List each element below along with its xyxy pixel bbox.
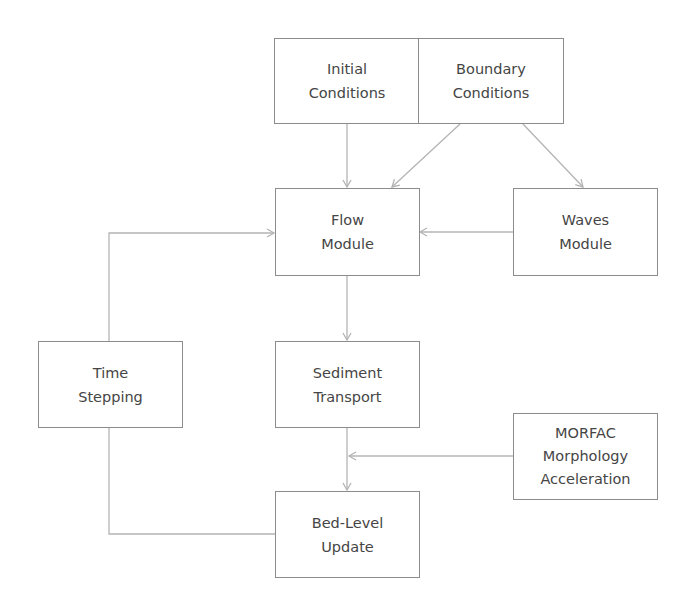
sediment-transport-box: Sediment Transport (275, 341, 420, 428)
time-stepping-line2: Stepping (78, 385, 143, 409)
initial-conditions-line1: Initial (327, 57, 367, 81)
boundary-conditions-box: Boundary Conditions (418, 38, 564, 124)
bed-level-update-line1: Bed-Level (312, 511, 384, 535)
waves-module-line2: Module (559, 232, 612, 256)
edge-bedlevel-to-time (109, 428, 275, 534)
flowchart-canvas: Initial Conditions Boundary Conditions F… (0, 0, 693, 598)
morfac-line3: Acceleration (540, 468, 630, 491)
time-stepping-box: Time Stepping (38, 341, 183, 428)
time-stepping-line1: Time (93, 361, 129, 385)
bed-level-update-line2: Update (321, 535, 374, 559)
waves-module-line1: Waves (562, 208, 609, 232)
edge-boundary-to-waves (523, 124, 583, 187)
boundary-conditions-line2: Conditions (453, 81, 530, 105)
initial-conditions-box: Initial Conditions (274, 38, 420, 124)
initial-conditions-line2: Conditions (309, 81, 386, 105)
edge-boundary-to-flow (392, 124, 460, 187)
morfac-line1: MORFAC (555, 422, 616, 445)
waves-module-box: Waves Module (513, 188, 658, 276)
bed-level-update-box: Bed-Level Update (275, 491, 420, 578)
morfac-line2: Morphology (543, 445, 628, 468)
flow-module-line1: Flow (331, 208, 364, 232)
sediment-transport-line2: Transport (313, 385, 381, 409)
boundary-conditions-line1: Boundary (456, 57, 526, 81)
edge-time-to-flow (109, 233, 274, 341)
morfac-box: MORFAC Morphology Acceleration (513, 413, 658, 500)
sediment-transport-line1: Sediment (313, 361, 382, 385)
flow-module-box: Flow Module (275, 188, 420, 276)
flow-module-line2: Module (321, 232, 374, 256)
